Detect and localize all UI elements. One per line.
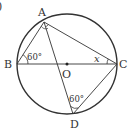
angle-label-d: 60° xyxy=(69,94,84,104)
angle-arc-c xyxy=(107,59,108,64)
geometry-figure: ) A B C D O 60° x 60° xyxy=(0,0,131,137)
corner-mark: ) xyxy=(0,0,2,13)
angle-arc-a-1 xyxy=(41,26,48,29)
label-c: C xyxy=(119,58,127,71)
angle-label-b: 60° xyxy=(27,52,42,62)
label-b: B xyxy=(4,58,12,71)
label-d: D xyxy=(70,118,79,131)
label-o: O xyxy=(62,68,71,81)
angle-arc-d xyxy=(71,106,79,108)
angle-arc-a-2 xyxy=(46,25,49,27)
angle-label-c: x xyxy=(94,53,100,64)
label-a: A xyxy=(37,6,47,19)
center-dot xyxy=(66,63,69,66)
